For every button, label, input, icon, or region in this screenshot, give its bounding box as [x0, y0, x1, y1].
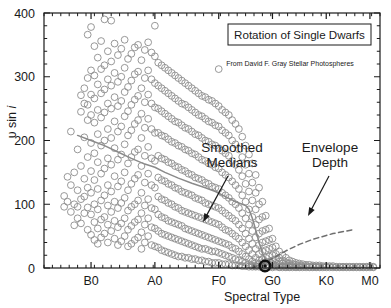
x-tick-label: K0	[319, 274, 334, 288]
x-tick-label: F0	[211, 274, 226, 288]
watermark-text: From David F. Gray Stellar Photospheres	[226, 60, 354, 68]
title-box-label: Rotation of Single Dwarfs	[234, 28, 365, 41]
annotation-label-line1: Smoothed	[201, 140, 263, 155]
y-axis-title: υ sin i	[5, 105, 19, 139]
annotation-label-line1: Envelope	[302, 140, 358, 155]
rotation-of-single-dwarfs-chart: 0100200300400 B0A0F0G0K0M0 υ sin i Spect…	[0, 0, 391, 308]
x-tick-label: A0	[147, 274, 162, 288]
x-tick-label: M0	[361, 274, 378, 288]
y-tick-label: 0	[28, 262, 35, 276]
annotation-label-line2: Medians	[206, 155, 257, 170]
y-tick-label: 300	[14, 70, 35, 84]
y-tick-label: 400	[14, 7, 35, 21]
title-box: Rotation of Single Dwarfs	[228, 24, 371, 45]
x-tick-label: B0	[83, 274, 98, 288]
x-tick-label: G0	[264, 274, 281, 288]
x-axis-title: Spectral Type	[224, 290, 300, 304]
y-tick-label: 100	[14, 198, 35, 212]
annotation-label-line2: Depth	[312, 155, 348, 170]
